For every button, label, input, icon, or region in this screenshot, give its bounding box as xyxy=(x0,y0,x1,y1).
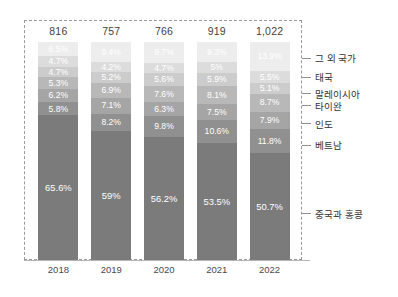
x-axis-line xyxy=(24,260,310,261)
legend-item-베트남[interactable]: 베트남 xyxy=(302,138,342,152)
columns-container: 8166.5%4.7%4.7%5.3%6.2%5.8%65.6%7579.4%4… xyxy=(24,20,302,260)
segment[interactable]: 6.2% xyxy=(38,89,78,103)
segment[interactable]: 11.8% xyxy=(250,129,290,154)
segment[interactable]: 6.3% xyxy=(144,102,184,116)
legend: 그 외 국가태국말레이시아타이완인도베트남중국과 홍콩 xyxy=(302,20,398,260)
segment[interactable]: 5% xyxy=(197,62,237,73)
column-2020[interactable]: 7669.7%4.7%5.6%7.6%6.3%9.8%56.2% xyxy=(144,20,184,260)
segment[interactable]: 59% xyxy=(91,131,131,260)
column-total-label: 757 xyxy=(91,20,131,42)
segment[interactable]: 9.4% xyxy=(91,42,131,62)
segment[interactable]: 4.7% xyxy=(38,56,78,66)
segment[interactable]: 8.2% xyxy=(91,114,131,132)
leader-line xyxy=(302,213,311,214)
segment[interactable]: 4.7% xyxy=(144,63,184,73)
column-total-label: 766 xyxy=(144,20,184,42)
column-2021[interactable]: 9199.3%5%5.9%8.1%7.5%10.6%53.5% xyxy=(197,20,237,260)
bar-stack[interactable]: 6.5%4.7%4.7%5.3%6.2%5.8%65.6% xyxy=(38,42,78,260)
legend-item-인도[interactable]: 인도 xyxy=(302,117,333,131)
segment[interactable]: 53.5% xyxy=(197,143,237,260)
x-tick-2022: 2022 xyxy=(243,264,296,275)
segment[interactable]: 5.3% xyxy=(38,77,78,89)
segment[interactable]: 4.2% xyxy=(91,62,131,71)
column-total-label: 816 xyxy=(38,20,78,42)
leader-line xyxy=(302,77,311,78)
legend-item-중국과 홍콩[interactable]: 중국과 홍콩 xyxy=(302,207,363,221)
segment[interactable]: 5.9% xyxy=(197,73,237,86)
bar-stack[interactable]: 9.4%4.2%5.2%6.9%7.1%8.2%59% xyxy=(91,42,131,260)
segment[interactable]: 9.8% xyxy=(144,116,184,137)
segment[interactable]: 5.5% xyxy=(250,71,290,83)
segment[interactable]: 5.1% xyxy=(250,83,290,94)
legend-label: 중국과 홍콩 xyxy=(315,207,363,221)
segment[interactable]: 4.7% xyxy=(38,67,78,77)
column-2018[interactable]: 8166.5%4.7%4.7%5.3%6.2%5.8%65.6% xyxy=(38,20,78,260)
bar-stack[interactable]: 13.9%5.5%5.1%8.7%7.9%11.8%50.7% xyxy=(250,42,290,260)
x-axis-tick-labels: 20182019202020212022 xyxy=(24,262,302,282)
segment[interactable]: 8.7% xyxy=(250,94,290,112)
segment[interactable]: 5.8% xyxy=(38,102,78,115)
column-2022[interactable]: 1,02213.9%5.5%5.1%8.7%7.9%11.8%50.7% xyxy=(250,20,290,260)
legend-item-태국[interactable]: 태국 xyxy=(302,70,333,84)
column-total-label: 1,022 xyxy=(250,20,290,42)
leader-line xyxy=(302,93,311,94)
segment[interactable]: 5.2% xyxy=(91,72,131,83)
segment[interactable]: 65.6% xyxy=(38,115,78,260)
segment[interactable]: 7.9% xyxy=(250,112,290,129)
legend-item-타이완[interactable]: 타이완 xyxy=(302,99,342,113)
legend-label: 그 외 국가 xyxy=(315,51,356,65)
segment[interactable]: 7.6% xyxy=(144,86,184,103)
column-total-label: 919 xyxy=(197,20,237,42)
leader-line xyxy=(302,105,311,106)
leader-line xyxy=(302,123,311,124)
segment[interactable]: 7.1% xyxy=(91,98,131,113)
leader-line xyxy=(302,145,311,146)
segment[interactable]: 5.6% xyxy=(144,73,184,85)
bar-stack[interactable]: 9.7%4.7%5.6%7.6%6.3%9.8%56.2% xyxy=(144,42,184,260)
segment[interactable]: 6.9% xyxy=(91,83,131,98)
legend-label: 태국 xyxy=(315,70,333,84)
x-tick-2019: 2019 xyxy=(85,264,138,275)
segment[interactable]: 7.5% xyxy=(197,104,237,120)
column-2019[interactable]: 7579.4%4.2%5.2%6.9%7.1%8.2%59% xyxy=(91,20,131,260)
legend-label: 타이완 xyxy=(315,99,342,113)
segment[interactable]: 6.5% xyxy=(38,42,78,56)
legend-label: 베트남 xyxy=(315,138,342,152)
segment[interactable]: 9.7% xyxy=(144,42,184,63)
segment[interactable]: 50.7% xyxy=(250,153,290,260)
segment[interactable]: 56.2% xyxy=(144,137,184,260)
leader-line xyxy=(302,58,311,59)
segment[interactable]: 10.6% xyxy=(197,120,237,143)
segment[interactable]: 8.1% xyxy=(197,86,237,104)
legend-label: 인도 xyxy=(315,117,333,131)
stacked-bar-chart: 8166.5%4.7%4.7%5.3%6.2%5.8%65.6%7579.4%4… xyxy=(0,0,398,297)
x-tick-2021: 2021 xyxy=(190,264,243,275)
segment[interactable]: 13.9% xyxy=(250,42,290,71)
x-tick-2018: 2018 xyxy=(32,264,85,275)
x-tick-2020: 2020 xyxy=(138,264,191,275)
segment[interactable]: 9.3% xyxy=(197,42,237,62)
bar-stack[interactable]: 9.3%5%5.9%8.1%7.5%10.6%53.5% xyxy=(197,42,237,260)
legend-item-그 외 국가[interactable]: 그 외 국가 xyxy=(302,51,356,65)
